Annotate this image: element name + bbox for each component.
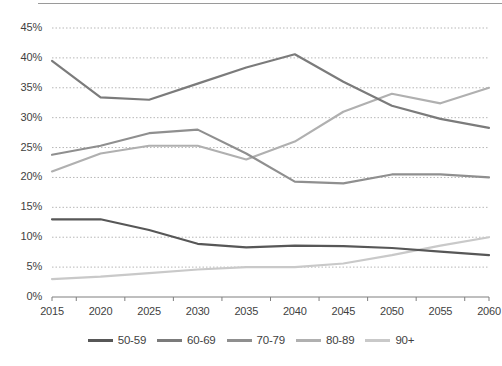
x-axis-tick-label: 2025 [127, 305, 171, 317]
x-axis-tick-label: 2060 [467, 305, 502, 317]
series-line-70-79 [52, 130, 489, 184]
line-chart: 0%5%10%15%20%25%30%35%40%45% 20152020202… [0, 0, 502, 366]
legend-swatch-icon [88, 339, 113, 342]
legend-swatch-icon [365, 339, 390, 342]
gridlines [52, 28, 489, 267]
legend-swatch-icon [157, 339, 182, 342]
x-axis-tick-label: 2015 [30, 305, 74, 317]
y-axis-tick-label: 40% [8, 52, 42, 63]
x-axis-tick-label: 2030 [176, 305, 220, 317]
chart-legend: 50-5960-6970-7980-8990+ [0, 334, 502, 346]
x-axis-tick-label: 2055 [418, 305, 462, 317]
y-axis-tick-label: 25% [8, 142, 42, 153]
y-axis-tick-label: 0% [8, 291, 42, 302]
legend-item-label: 80-89 [326, 334, 354, 346]
x-axis-tick-label: 2020 [79, 305, 123, 317]
y-axis-tick-label: 35% [8, 82, 42, 93]
x-axis-tick-label: 2035 [224, 305, 268, 317]
legend-item-80-89[interactable]: 80-89 [296, 334, 354, 346]
y-axis-tick-label: 30% [8, 112, 42, 123]
legend-item-50-59[interactable]: 50-59 [88, 334, 146, 346]
x-axis-tick-label: 2040 [273, 305, 317, 317]
series-line-60-69 [52, 54, 489, 128]
legend-swatch-icon [227, 339, 252, 342]
legend-item-90plus[interactable]: 90+ [365, 334, 414, 346]
legend-item-60-69[interactable]: 60-69 [157, 334, 215, 346]
axes [52, 297, 489, 301]
x-axis-tick-label: 2045 [321, 305, 365, 317]
y-axis-tick-label: 5% [8, 261, 42, 272]
x-axis-tick-label: 2050 [370, 305, 414, 317]
legend-item-label: 50-59 [118, 334, 146, 346]
series-line-80-89 [52, 88, 489, 172]
legend-item-label: 70-79 [257, 334, 285, 346]
y-axis-tick-label: 20% [8, 171, 42, 182]
legend-swatch-icon [296, 339, 321, 342]
legend-item-70-79[interactable]: 70-79 [227, 334, 285, 346]
legend-item-label: 90+ [395, 334, 414, 346]
legend-item-label: 60-69 [187, 334, 215, 346]
y-axis-tick-label: 10% [8, 231, 42, 242]
y-axis-tick-label: 15% [8, 201, 42, 212]
series-line-90plus [52, 237, 489, 279]
y-axis-tick-label: 45% [8, 22, 42, 33]
